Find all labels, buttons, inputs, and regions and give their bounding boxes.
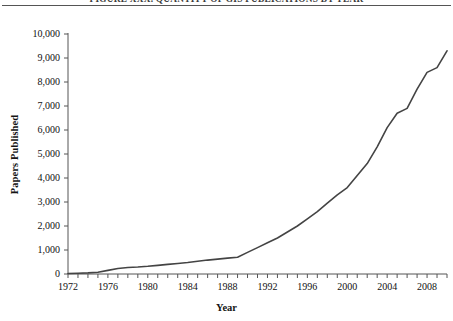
y-axis-tick-label: 6,000 — [2, 124, 60, 135]
x-axis-tick-label: 1992 — [247, 281, 287, 292]
x-axis-tick-label: 2000 — [327, 281, 367, 292]
y-axis-tick-label: 1,000 — [2, 244, 60, 255]
y-axis-tick-label: 2,000 — [2, 220, 60, 231]
figure-title: FIGURE XXX. QUANTITY OF GIS PUBLICATIONS… — [0, 0, 453, 4]
x-axis-tick-label: 1996 — [287, 281, 327, 292]
y-axis-tick-label: 4,000 — [2, 172, 60, 183]
x-axis-tick-label: 1972 — [48, 281, 88, 292]
y-axis-tick-label: 7,000 — [2, 100, 60, 111]
y-axis-tick-label: 10,000 — [2, 28, 60, 39]
header-rule — [2, 5, 451, 6]
x-axis-tick-label: 1976 — [88, 281, 128, 292]
line-chart-plot — [0, 9, 453, 321]
x-axis-tick-label: 2008 — [407, 281, 447, 292]
x-axis-tick-label: 1980 — [128, 281, 168, 292]
figure-header: FIGURE XXX. QUANTITY OF GIS PUBLICATIONS… — [0, 0, 453, 9]
x-axis-tick-label: 1984 — [168, 281, 208, 292]
x-axis-tick-label: 1988 — [208, 281, 248, 292]
y-axis-tick-label: 8,000 — [2, 76, 60, 87]
y-axis-tick-label: 9,000 — [2, 52, 60, 63]
x-axis-title: Year — [0, 302, 453, 313]
x-axis-tick-label: 2004 — [367, 281, 407, 292]
y-axis-tick-label: 0 — [2, 268, 60, 279]
chart-area: Papers Published Year 01,0002,0003,0004,… — [0, 9, 453, 321]
y-axis-tick-label: 5,000 — [2, 148, 60, 159]
y-axis-tick-label: 3,000 — [2, 196, 60, 207]
data-series-line — [68, 51, 447, 274]
